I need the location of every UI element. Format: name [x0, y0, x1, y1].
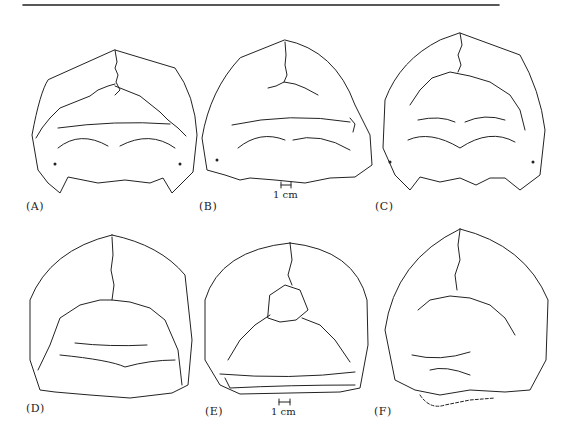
panel-label-a: (A)	[26, 200, 44, 213]
scale-label-e: 1 cm	[271, 406, 296, 417]
scale-bar-b	[281, 182, 291, 188]
skull-figure	[0, 0, 575, 441]
skull-b	[202, 40, 372, 183]
scale-bar-e	[279, 399, 290, 405]
scale-label-b: 1 cm	[273, 189, 298, 200]
skull-d	[30, 235, 192, 398]
skull-e	[205, 243, 368, 394]
panel-label-c: (C)	[375, 200, 394, 213]
panel-label-d: (D)	[26, 402, 45, 415]
panel-label-b: (B)	[199, 200, 217, 213]
panel-label-e: (E)	[205, 405, 223, 418]
panel-label-f: (F)	[374, 405, 392, 418]
skull-f	[385, 229, 548, 406]
skull-a	[32, 50, 197, 193]
skull-c	[383, 33, 545, 190]
